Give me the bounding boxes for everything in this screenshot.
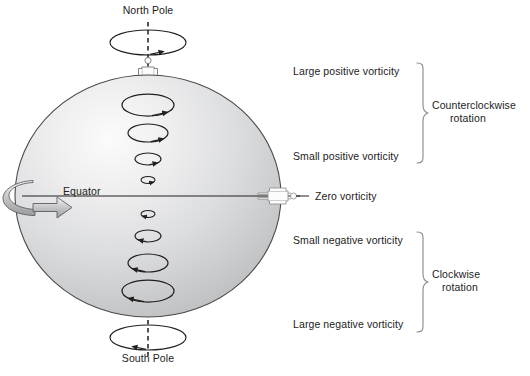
large-negative-vorticity-label: Large negative vorticity [293,318,403,330]
small-positive-vorticity-label: Small positive vorticity [293,150,399,162]
clockwise-line-2: rotation [432,281,478,294]
south-pole-label: South Pole [92,352,204,364]
small-negative-vorticity-label: Small negative vorticity [293,234,403,246]
north-pole-label: North Pole [92,4,204,16]
brace-counterclockwise [417,63,428,163]
vorticity-diagram: North Pole South Pole Equator Large posi… [0,0,530,376]
counterclockwise-line-1: Counterclockwise [432,99,516,111]
clockwise-rotation-label: Clockwise rotation [432,268,528,294]
counterclockwise-line-2: rotation [432,112,486,125]
brace-clockwise [417,232,428,332]
counterclockwise-rotation-label: Counterclockwise rotation [432,99,528,125]
equator-label: Equator [63,185,100,197]
zero-vorticity-label: Zero vorticity [315,190,377,202]
clockwise-line-1: Clockwise [432,268,480,280]
large-positive-vorticity-label: Large positive vorticity [293,65,399,77]
